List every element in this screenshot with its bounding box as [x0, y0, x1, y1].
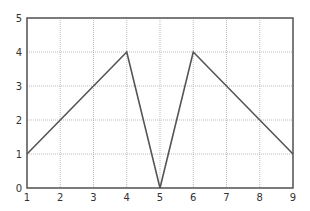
x-tick-label: 7	[223, 192, 229, 203]
x-tick-label: 8	[257, 192, 263, 203]
y-tick-label: 3	[16, 81, 22, 92]
x-tick-label: 2	[57, 192, 63, 203]
x-tick-label: 5	[157, 192, 163, 203]
y-tick-label: 4	[16, 47, 22, 58]
x-tick-label: 6	[190, 192, 196, 203]
x-tick-label: 1	[24, 192, 30, 203]
y-tick-label: 5	[16, 13, 22, 24]
x-axis-ticks: 123456789	[24, 192, 296, 203]
line-chart: 123456789 012345	[0, 0, 310, 211]
x-tick-label: 9	[290, 192, 296, 203]
y-tick-label: 1	[16, 149, 22, 160]
y-tick-label: 0	[16, 183, 22, 194]
x-tick-label: 4	[124, 192, 130, 203]
y-axis-ticks: 012345	[16, 13, 22, 194]
x-tick-label: 3	[90, 192, 96, 203]
grid-lines	[27, 18, 293, 188]
y-tick-label: 2	[16, 115, 22, 126]
